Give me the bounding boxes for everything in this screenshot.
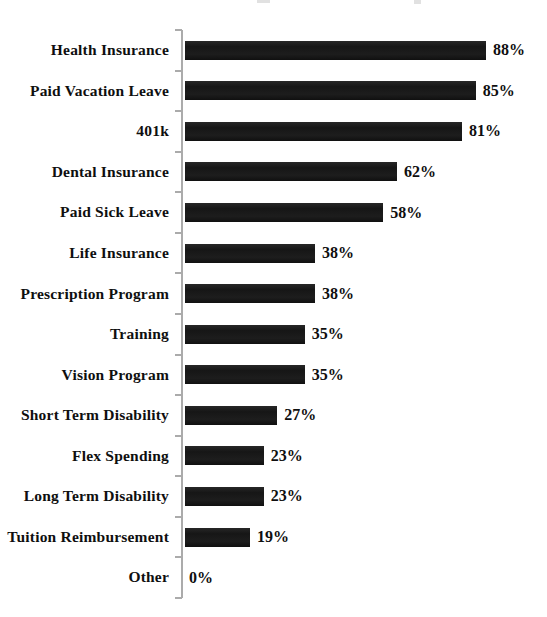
bar <box>185 446 264 465</box>
bar <box>185 325 305 344</box>
chart-row: Vision Program 35% <box>0 355 547 396</box>
value-label: 58% <box>390 204 422 222</box>
category-label: Life Insurance <box>0 245 182 261</box>
value-label: 88% <box>493 41 525 59</box>
category-label: Prescription Program <box>0 286 182 302</box>
chart-row: Training 35% <box>0 314 547 355</box>
chart-row: Other 0% <box>0 557 547 598</box>
bar <box>185 162 397 181</box>
value-label: 35% <box>312 366 344 384</box>
bar <box>185 406 277 425</box>
category-label: Training <box>0 326 182 342</box>
bar <box>185 122 462 141</box>
bar <box>185 528 250 547</box>
chart-row: Life Insurance 38% <box>0 233 547 274</box>
chart-row: Paid Sick Leave 58% <box>0 192 547 233</box>
chart-row: Health Insurance 88% <box>0 30 547 71</box>
cropped-title-remnant <box>414 0 421 4</box>
category-label: Dental Insurance <box>0 164 182 180</box>
category-label: Vision Program <box>0 367 182 383</box>
category-label: Other <box>0 569 182 585</box>
value-label: 38% <box>322 244 354 262</box>
bar <box>185 284 315 303</box>
value-label: 0% <box>189 569 213 587</box>
value-label: 23% <box>271 487 303 505</box>
chart-row: 401k 81% <box>0 111 547 152</box>
chart-row: Long Term Disability 23% <box>0 476 547 517</box>
value-label: 23% <box>271 447 303 465</box>
value-label: 85% <box>483 82 515 100</box>
benefits-bar-chart: Health Insurance 88% Paid Vacation Leave… <box>0 0 547 617</box>
value-label: 35% <box>312 325 344 343</box>
chart-row: Tuition Reimbursement 19% <box>0 517 547 558</box>
chart-row: Short Term Disability 27% <box>0 395 547 436</box>
bar <box>185 244 315 263</box>
value-label: 81% <box>469 122 501 140</box>
bar <box>185 81 476 100</box>
bar <box>185 365 305 384</box>
value-label: 27% <box>284 406 316 424</box>
category-label: 401k <box>0 123 182 139</box>
bar <box>185 41 486 60</box>
value-label: 38% <box>322 285 354 303</box>
value-label: 62% <box>404 163 436 181</box>
cropped-title-remnant <box>257 0 270 3</box>
value-label: 19% <box>257 528 289 546</box>
category-label: Tuition Reimbursement <box>0 529 182 545</box>
category-label: Long Term Disability <box>0 488 182 504</box>
bar <box>185 487 264 506</box>
category-label: Paid Sick Leave <box>0 204 182 220</box>
chart-rows: Health Insurance 88% Paid Vacation Leave… <box>0 30 547 598</box>
chart-row: Dental Insurance 62% <box>0 152 547 193</box>
bar <box>185 203 383 222</box>
category-label: Paid Vacation Leave <box>0 83 182 99</box>
category-label: Health Insurance <box>0 42 182 58</box>
category-label: Flex Spending <box>0 448 182 464</box>
chart-row: Flex Spending 23% <box>0 436 547 477</box>
chart-row: Paid Vacation Leave 85% <box>0 71 547 112</box>
chart-row: Prescription Program 38% <box>0 273 547 314</box>
category-label: Short Term Disability <box>0 407 182 423</box>
